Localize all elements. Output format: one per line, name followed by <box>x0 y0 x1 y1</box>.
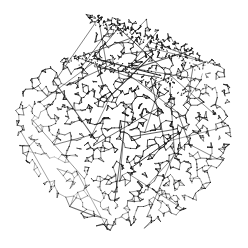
figure-canvas: 3D wireframe mesh point cloud Dense blac… <box>0 0 248 248</box>
wireframe-mesh-svg <box>0 0 248 248</box>
figure-background <box>0 0 248 248</box>
